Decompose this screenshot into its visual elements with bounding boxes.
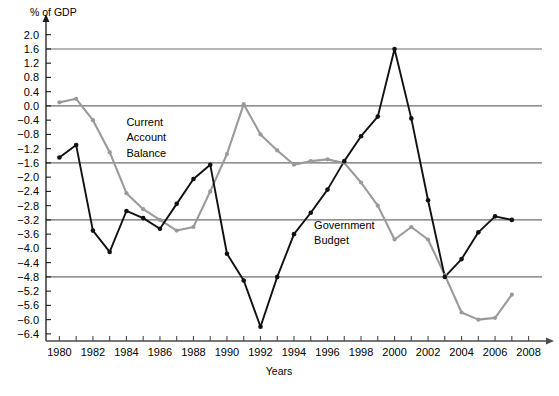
data-point — [392, 47, 397, 52]
y-tick-label: −6.4 — [17, 328, 39, 340]
y-tick-label: −2.4 — [17, 185, 39, 197]
data-point — [459, 310, 463, 314]
data-point — [124, 191, 128, 195]
data-point — [191, 225, 195, 229]
data-point — [426, 237, 430, 241]
data-point — [443, 275, 448, 280]
data-point — [325, 187, 330, 192]
x-tick-label: 2004 — [449, 346, 473, 358]
current-account-balance-label: Current — [126, 116, 163, 128]
data-point — [359, 180, 363, 184]
data-point — [241, 278, 246, 283]
data-point — [57, 155, 62, 160]
data-point — [376, 204, 380, 208]
y-tick-label: −2.0 — [17, 171, 39, 183]
data-point — [74, 143, 79, 148]
line-chart: 2.01.61.20.80.40.0−0.4−0.8−1.2−1.6−2.0−2… — [0, 0, 559, 396]
x-tick-label: 1996 — [315, 346, 339, 358]
x-tick-label: 2002 — [416, 346, 440, 358]
y-tick-label: −0.8 — [17, 128, 39, 140]
data-point — [409, 225, 413, 229]
data-point — [242, 102, 246, 106]
x-tick-label: 1992 — [248, 346, 272, 358]
data-point — [459, 257, 464, 262]
y-tick-label: 1.2 — [24, 57, 39, 69]
data-point — [275, 148, 279, 152]
current-account-balance-label: Balance — [126, 147, 166, 159]
y-tick-label: −6.0 — [17, 314, 39, 326]
data-point — [292, 163, 296, 167]
chart-background — [0, 0, 559, 396]
y-tick-label: 2.0 — [24, 29, 39, 41]
y-tick-label: 0.0 — [24, 100, 39, 112]
data-point — [258, 324, 263, 329]
data-point — [409, 116, 414, 121]
data-point — [476, 318, 480, 322]
data-point — [392, 237, 396, 241]
y-tick-label: −1.6 — [17, 157, 39, 169]
x-tick-label: 1986 — [148, 346, 172, 358]
y-tick-label: 1.6 — [24, 43, 39, 55]
y-tick-label: 0.8 — [24, 71, 39, 83]
y-tick-label: −5.6 — [17, 299, 39, 311]
data-point — [426, 198, 431, 203]
y-tick-label: −2.8 — [17, 200, 39, 212]
data-point — [476, 230, 481, 235]
x-axis-title: Years — [266, 365, 292, 377]
data-point — [510, 218, 515, 223]
data-point — [124, 209, 129, 214]
data-point — [175, 228, 179, 232]
x-tick-label: 1988 — [181, 346, 205, 358]
data-point — [225, 251, 230, 256]
data-point — [308, 210, 313, 215]
data-point — [141, 207, 145, 211]
data-point — [208, 189, 212, 193]
data-point — [510, 293, 514, 297]
data-point — [342, 159, 347, 164]
y-tick-label: −3.2 — [17, 214, 39, 226]
data-point — [141, 216, 146, 221]
government-budget-label: Government — [314, 219, 375, 231]
data-point — [292, 232, 297, 237]
data-point — [258, 132, 262, 136]
government-budget-label: Budget — [314, 234, 349, 246]
y-tick-label: −4.8 — [17, 271, 39, 283]
data-point — [158, 218, 162, 222]
x-tick-label: 1982 — [81, 346, 105, 358]
data-point — [107, 250, 112, 255]
y-tick-label: −3.6 — [17, 228, 39, 240]
x-tick-label: 2008 — [516, 346, 540, 358]
y-tick-label: −4.0 — [17, 242, 39, 254]
x-tick-label: 1990 — [215, 346, 239, 358]
x-tick-label: 1994 — [282, 346, 306, 358]
data-point — [91, 118, 95, 122]
data-point — [158, 227, 163, 232]
x-tick-label: 2006 — [483, 346, 507, 358]
data-point — [493, 214, 498, 219]
y-tick-label: −5.2 — [17, 285, 39, 297]
y-tick-label: 0.4 — [24, 86, 39, 98]
data-point — [325, 157, 329, 161]
data-point — [275, 275, 280, 280]
x-tick-label: 1984 — [114, 346, 138, 358]
data-point — [225, 152, 229, 156]
y-axis-title: % of GDP — [30, 6, 77, 18]
x-tick-label: 1980 — [47, 346, 71, 358]
y-tick-label: −4.4 — [17, 257, 39, 269]
y-tick-label: −1.2 — [17, 143, 39, 155]
data-point — [191, 177, 196, 182]
data-point — [375, 114, 380, 119]
data-point — [493, 316, 497, 320]
y-tick-label: −0.4 — [17, 114, 39, 126]
data-point — [108, 150, 112, 154]
data-point — [57, 100, 61, 104]
data-point — [208, 162, 213, 167]
x-tick-label: 2000 — [382, 346, 406, 358]
chart-container: 2.01.61.20.80.40.0−0.4−0.8−1.2−1.6−2.0−2… — [0, 0, 559, 396]
data-point — [359, 134, 364, 139]
data-point — [174, 202, 179, 207]
data-point — [74, 97, 78, 101]
current-account-balance-label: Account — [126, 131, 166, 143]
x-axis-tick-labels: 1980198219841986198819901992199419961998… — [47, 346, 541, 358]
data-point — [91, 228, 96, 233]
